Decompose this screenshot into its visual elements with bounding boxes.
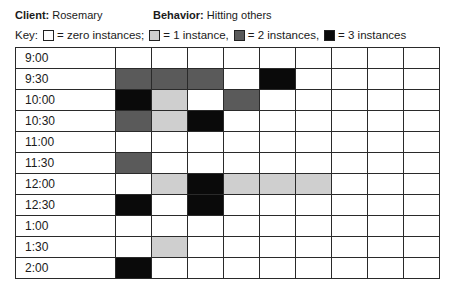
grid-row: 9:30 bbox=[16, 69, 440, 90]
grid-cell bbox=[188, 216, 224, 237]
time-label: 1:00 bbox=[16, 216, 116, 237]
grid-cell bbox=[260, 153, 296, 174]
time-label: 1:30 bbox=[16, 237, 116, 258]
grid-cell bbox=[296, 195, 332, 216]
time-label: 12:00 bbox=[16, 174, 116, 195]
grid-cell bbox=[368, 195, 404, 216]
time-label: 10:00 bbox=[16, 90, 116, 111]
grid-cell bbox=[332, 174, 368, 195]
grid-cell bbox=[404, 258, 440, 279]
grid-cell bbox=[332, 258, 368, 279]
grid-cell bbox=[260, 258, 296, 279]
grid-cell bbox=[224, 132, 260, 153]
grid-cell bbox=[368, 132, 404, 153]
grid-cell bbox=[260, 237, 296, 258]
grid-cell bbox=[260, 90, 296, 111]
grid-cell bbox=[224, 90, 260, 111]
grid-cell bbox=[368, 69, 404, 90]
grid-cell bbox=[296, 153, 332, 174]
grid-cell bbox=[404, 237, 440, 258]
grid-cell bbox=[152, 90, 188, 111]
behavior-value: Hitting others bbox=[207, 9, 272, 21]
grid-row: 2:00 bbox=[16, 258, 440, 279]
grid-cell bbox=[368, 258, 404, 279]
grid-cell bbox=[116, 111, 152, 132]
grid-row: 10:00 bbox=[16, 90, 440, 111]
legend: Key: = zero instances; = 1 instance, = 2… bbox=[15, 29, 406, 41]
grid-cell bbox=[404, 69, 440, 90]
grid-cell bbox=[368, 48, 404, 69]
grid-cell bbox=[116, 90, 152, 111]
grid-cell bbox=[332, 237, 368, 258]
client-field: Client: Rosemary bbox=[15, 9, 102, 21]
grid-cell bbox=[152, 174, 188, 195]
grid-cell bbox=[152, 111, 188, 132]
grid-cell bbox=[188, 153, 224, 174]
grid-cell bbox=[404, 195, 440, 216]
client-label: Client: bbox=[15, 9, 49, 21]
swatch-two-icon bbox=[234, 30, 245, 41]
grid-cell bbox=[296, 90, 332, 111]
scatterplot-grid: 9:009:3010:0010:3011:0011:3012:0012:301:… bbox=[15, 47, 440, 279]
grid-cell bbox=[296, 69, 332, 90]
grid-cell bbox=[332, 153, 368, 174]
behavior-label: Behavior: bbox=[153, 9, 204, 21]
grid-cell bbox=[260, 195, 296, 216]
grid-cell bbox=[116, 132, 152, 153]
grid-cell bbox=[296, 258, 332, 279]
grid-cell bbox=[296, 216, 332, 237]
grid-cell bbox=[332, 48, 368, 69]
grid-cell bbox=[188, 48, 224, 69]
grid-cell bbox=[116, 48, 152, 69]
grid-cell bbox=[152, 258, 188, 279]
client-value: Rosemary bbox=[52, 9, 102, 21]
grid-cell bbox=[116, 174, 152, 195]
grid-cell bbox=[188, 174, 224, 195]
grid-cell bbox=[188, 69, 224, 90]
grid-cell bbox=[116, 69, 152, 90]
grid-cell bbox=[404, 111, 440, 132]
grid-cell bbox=[368, 153, 404, 174]
grid-cell bbox=[152, 237, 188, 258]
grid-cell bbox=[404, 132, 440, 153]
time-label: 11:30 bbox=[16, 153, 116, 174]
time-label: 2:00 bbox=[16, 258, 116, 279]
grid-cell bbox=[296, 174, 332, 195]
grid-cell bbox=[188, 195, 224, 216]
grid-row: 11:30 bbox=[16, 153, 440, 174]
grid-cell bbox=[368, 90, 404, 111]
swatch-zero-icon bbox=[43, 30, 54, 41]
grid-cell bbox=[368, 216, 404, 237]
grid-cell bbox=[404, 216, 440, 237]
grid-row: 1:00 bbox=[16, 216, 440, 237]
grid-row: 11:00 bbox=[16, 132, 440, 153]
grid-cell bbox=[152, 132, 188, 153]
grid-cell bbox=[332, 132, 368, 153]
legend-two-label: = 2 instances, bbox=[248, 29, 319, 41]
grid-cell bbox=[188, 132, 224, 153]
grid-cell bbox=[296, 111, 332, 132]
grid-cell bbox=[332, 111, 368, 132]
time-label: 11:00 bbox=[16, 132, 116, 153]
grid-row: 9:00 bbox=[16, 48, 440, 69]
grid-cell bbox=[332, 195, 368, 216]
grid-cell bbox=[296, 237, 332, 258]
grid-cell bbox=[404, 153, 440, 174]
grid-cell bbox=[152, 195, 188, 216]
grid-cell bbox=[116, 216, 152, 237]
grid-cell bbox=[260, 48, 296, 69]
grid-cell bbox=[332, 69, 368, 90]
swatch-three-icon bbox=[324, 30, 335, 41]
grid-cell bbox=[224, 111, 260, 132]
grid-cell bbox=[224, 216, 260, 237]
grid-cell bbox=[368, 111, 404, 132]
grid-cell bbox=[368, 237, 404, 258]
grid-cell bbox=[152, 216, 188, 237]
legend-prefix: Key: bbox=[15, 29, 38, 41]
grid-cell bbox=[368, 174, 404, 195]
grid-row: 10:30 bbox=[16, 111, 440, 132]
time-label: 9:00 bbox=[16, 48, 116, 69]
grid-cell bbox=[152, 48, 188, 69]
grid-cell bbox=[224, 174, 260, 195]
time-label: 12:30 bbox=[16, 195, 116, 216]
